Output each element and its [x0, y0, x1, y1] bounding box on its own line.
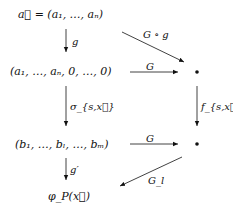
- label-G-top: G: [146, 61, 154, 72]
- bullet-top: [195, 70, 199, 74]
- label-G-bottom: G: [146, 133, 154, 144]
- label-G-compose-g: G ∘ g: [143, 29, 169, 40]
- arrows-layer: [0, 0, 233, 219]
- node-permuted: (b₁, …, bₗ, …, bₘ): [15, 139, 109, 151]
- label-g-prime: g′: [70, 164, 79, 175]
- node-start: a⃗ = (a₁, …, aₙ): [18, 9, 103, 21]
- label-sigma: σ_{s,x⃗}: [70, 101, 115, 112]
- label-f: f_{s,x⃗}: [201, 101, 233, 112]
- bullet-bottom: [195, 142, 199, 146]
- node-padded: (a₁, …, aₙ, 0, …, 0): [10, 66, 112, 78]
- node-result: φ_P(x⃗): [48, 191, 90, 203]
- label-G-l: G_l: [148, 175, 164, 186]
- label-g: g: [72, 36, 78, 47]
